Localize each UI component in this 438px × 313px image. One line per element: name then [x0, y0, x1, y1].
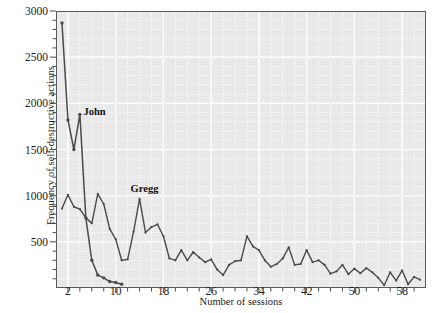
data-point: [276, 263, 278, 265]
data-point: [210, 258, 212, 260]
data-point: [66, 118, 69, 121]
chart-figure: 50010001500200025003000 210182634425058 …: [0, 0, 438, 313]
data-point: [347, 273, 349, 275]
data-point: [329, 273, 331, 275]
data-point: [204, 261, 206, 263]
data-point: [264, 259, 266, 261]
data-point: [103, 203, 105, 205]
data-point: [102, 276, 105, 279]
data-point: [407, 283, 409, 285]
data-point: [383, 284, 385, 286]
data-point: [371, 271, 373, 273]
data-point: [365, 267, 367, 269]
data-point: [192, 251, 194, 253]
data-point: [246, 235, 248, 237]
data-point: [108, 280, 111, 283]
data-point: [359, 272, 361, 274]
data-point: [120, 283, 123, 286]
data-point: [91, 222, 93, 224]
data-point: [228, 264, 230, 266]
data-point: [79, 208, 81, 210]
data-point: [127, 258, 129, 260]
data-point: [389, 271, 391, 273]
data-point: [115, 238, 117, 240]
data-point: [401, 269, 403, 271]
data-point: [78, 113, 81, 116]
data-point: [85, 217, 87, 219]
data-point: [138, 198, 140, 200]
data-point: [109, 228, 111, 230]
data-point: [395, 280, 397, 282]
data-point: [377, 277, 379, 279]
data-point: [73, 206, 75, 208]
data-point: [419, 279, 421, 281]
data-point: [335, 270, 337, 272]
data-point: [60, 21, 63, 24]
data-point: [288, 246, 290, 248]
data-point: [300, 263, 302, 265]
data-point: [323, 264, 325, 266]
data-point: [282, 257, 284, 259]
data-point: [353, 268, 355, 270]
data-point: [150, 226, 152, 228]
line-chart-plot: [0, 0, 438, 313]
data-point: [174, 259, 176, 261]
data-point: [180, 249, 182, 251]
data-point: [144, 232, 146, 234]
data-point: [198, 256, 200, 258]
data-point: [90, 259, 93, 262]
data-point: [156, 223, 158, 225]
data-point: [96, 273, 99, 276]
data-point: [341, 264, 343, 266]
x-axis-title: Number of sessions: [55, 296, 427, 307]
data-point: [222, 274, 224, 276]
data-point: [61, 207, 63, 209]
data-point: [67, 194, 69, 196]
y-axis-title: Frequency of self-destructive actions: [45, 16, 56, 276]
data-point: [72, 148, 75, 151]
data-point: [114, 281, 117, 284]
data-point: [186, 259, 188, 261]
data-point: [294, 264, 296, 266]
data-point: [317, 259, 319, 261]
data-point: [252, 245, 254, 247]
data-point: [306, 249, 308, 251]
data-point: [162, 235, 164, 237]
data-point: [240, 259, 242, 261]
data-point: [97, 193, 99, 195]
data-point: [216, 268, 218, 270]
data-point: [258, 249, 260, 251]
data-point: [270, 266, 272, 268]
data-point: [132, 231, 134, 233]
data-point: [168, 257, 170, 259]
data-point: [121, 259, 123, 261]
data-point: [413, 276, 415, 278]
data-point: [312, 261, 314, 263]
data-point: [234, 260, 236, 262]
